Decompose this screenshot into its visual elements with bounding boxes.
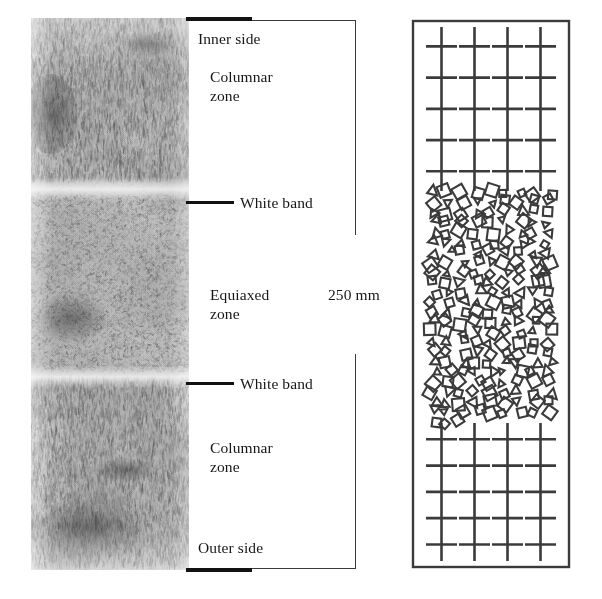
equiaxed-grain-square [438,255,453,270]
equiaxed-grain-square [439,278,450,289]
equiaxed-grain-triangle [528,327,537,337]
micrograph-canvas [31,18,189,570]
equiaxed-grain-triangle [429,405,439,413]
equiaxed-grain-square [451,413,465,427]
equiaxed-grain-square [544,287,553,296]
equiaxed-grain-triangle [498,380,505,389]
equiaxed-grain-triangle [510,316,523,328]
equiaxed-grain-square [542,405,558,421]
equiaxed-grain-square [484,348,496,360]
equiaxed-grain-square [467,229,477,239]
equiaxed-grain-square [474,275,484,285]
equiaxed-grain-triangle [504,269,513,277]
equiaxed-grain-square [458,264,471,277]
equiaxed-grain-triangle [506,225,514,235]
equiaxed-grain-square [486,294,502,310]
equiaxed-grain-square [455,245,465,255]
label-columnar-zone-bottom: Columnar zone [210,438,273,476]
equiaxed-grain-triangle [499,367,506,375]
equiaxed-grain-square [474,255,484,265]
equiaxed-grain-triangle [511,385,523,398]
label-columnar-zone-top: Columnar zone [210,67,273,105]
equiaxed-grain-square [495,276,508,289]
equiaxed-grain-square [444,298,454,308]
equiaxed-grain-triangle [452,277,465,288]
label-dimension: 250 mm [328,285,380,304]
white-band-leader-bottom [186,382,234,385]
equiaxed-grain-square [422,386,436,400]
dimension-bracket-lower [355,354,356,568]
equiaxed-grain-triangle [541,222,550,229]
equiaxed-grain-square [483,360,491,368]
equiaxed-grain-square [529,205,538,214]
label-white-band-top: White band [240,193,313,212]
equiaxed-grain-square [517,407,528,418]
equiaxed-grain-triangle [440,409,448,416]
equiaxed-grain-square [453,318,467,332]
equiaxed-grain-triangle [501,317,510,325]
label-outer-side: Outer side [198,538,263,557]
equiaxed-grain-square [530,394,544,408]
equiaxed-grain-square [456,404,470,418]
equiaxed-grain-square [483,394,497,408]
equiaxed-grain-square [543,348,552,357]
equiaxed-zone-graphic [422,183,558,430]
equiaxed-grain-square [440,346,450,356]
white-band-leader-top [186,201,234,204]
equiaxed-grain-triangle [442,196,452,207]
equiaxed-grain-triangle [443,270,451,277]
micrograph-image [31,18,189,570]
equiaxed-grain-square [466,385,478,397]
equiaxed-grain-square [497,409,506,418]
columnar-zone-top-graphic [426,27,556,191]
label-white-band-bottom: White band [240,374,313,393]
dimension-bracket-upper [355,21,356,235]
equiaxed-grain-square [432,290,442,300]
equiaxed-grain-triangle [497,214,505,223]
equiaxed-grain-square [543,207,553,217]
equiaxed-grain-square [527,408,537,418]
equiaxed-grain-triangle [547,356,557,365]
schematic-diagram [411,19,571,569]
equiaxed-grain-triangle [528,287,538,295]
equiaxed-grain-square [437,183,452,198]
panel-top-cap [186,17,252,21]
equiaxed-grain-square [485,183,500,198]
equiaxed-grain-square [502,305,511,314]
equiaxed-grain-square [461,336,469,344]
equiaxed-grain-square [514,263,525,274]
label-inner-side: Inner side [198,29,261,48]
equiaxed-grain-square [512,374,523,385]
annotation-panel: Inner side Columnar zone White band Equi… [186,20,356,569]
equiaxed-grain-square [528,344,537,353]
equiaxed-grain-square [454,388,463,397]
equiaxed-grain-square [472,240,481,249]
figure-canvas: Inner side Columnar zone White band Equi… [0,0,602,599]
columnar-zone-bottom-graphic [426,423,556,561]
panel-bottom-cap [186,568,252,572]
equiaxed-grain-triangle [515,205,529,220]
equiaxed-grain-square [500,325,511,336]
equiaxed-grain-square [482,243,494,255]
equiaxed-grain-square [546,324,557,335]
equiaxed-grain-triangle [545,388,557,402]
equiaxed-grain-square [424,323,436,335]
equiaxed-grain-square [540,240,549,249]
label-equiaxed-zone: Equiaxed zone [210,285,269,323]
equiaxed-grain-square [513,274,524,285]
schematic-svg [411,19,571,569]
equiaxed-grain-square [529,194,539,204]
